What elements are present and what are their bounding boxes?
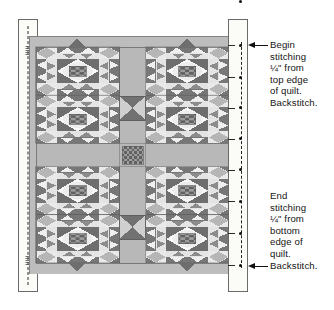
end-line-3: ¼" from [270, 213, 334, 225]
end-line-7: Backstitch. [270, 260, 334, 272]
end-line-1: End [270, 190, 334, 202]
begin-callout: Begin stitching ¼" from top edge of quil… [270, 39, 334, 109]
quilt-top [29, 36, 236, 274]
seam-tick [228, 170, 235, 171]
seam-tick [228, 45, 235, 46]
end-line-2: stitching [270, 202, 334, 214]
pin-marker [239, 106, 242, 109]
seam-tick [228, 233, 235, 234]
pin-marker [239, 264, 242, 267]
pin-marker [239, 200, 242, 203]
quilt-svg [29, 36, 236, 274]
seam-tick [228, 265, 235, 266]
pin-marker [239, 76, 242, 79]
begin-line-5: of quilt. [270, 85, 334, 97]
diagram-canvas: Begin stitching ¼" from top edge of quil… [0, 0, 334, 310]
pin-marker [239, 44, 242, 47]
pin-marker [239, 137, 242, 140]
seam-tick [228, 108, 235, 109]
begin-line-1: Begin [270, 39, 334, 51]
pin-marker [239, 232, 242, 235]
right-binding-strip [228, 19, 248, 292]
seam-tick [228, 77, 235, 78]
end-line-4: bottom [270, 225, 334, 237]
pin-marker [239, 0, 242, 3]
pin-marker [239, 168, 242, 171]
end-callout: End stitching ¼" from bottom edge of qui… [270, 190, 334, 271]
begin-line-2: stitching [270, 51, 334, 63]
end-line-6: quilt. [270, 248, 334, 260]
begin-line-3: ¼" from [270, 62, 334, 74]
seam-tick [228, 201, 235, 202]
begin-line-4: top edge [270, 74, 334, 86]
begin-line-6: Backstitch. [270, 97, 334, 109]
seam-tick [228, 139, 235, 140]
end-line-5: edge of [270, 236, 334, 248]
